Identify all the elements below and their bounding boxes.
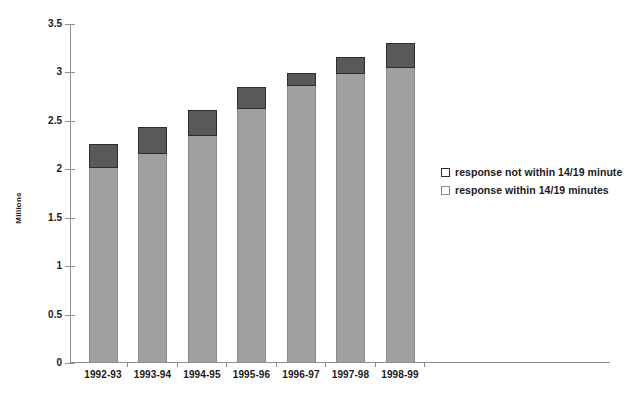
y-axis-tick-label: 0: [22, 358, 62, 368]
bar-segment-within[interactable]: [188, 136, 217, 362]
legend-item-label: response not within 14/19 minute: [455, 166, 622, 178]
bar-1992-93[interactable]: [89, 144, 118, 362]
bar-1994-95[interactable]: [188, 110, 217, 362]
bar-segment-not-within[interactable]: [287, 73, 316, 86]
legend-item-label: response within 14/19 minutes: [455, 184, 609, 196]
bar-segment-not-within[interactable]: [138, 127, 167, 154]
x-axis-tick: [226, 363, 227, 367]
y-axis-tick: [65, 266, 75, 267]
x-axis-tick: [177, 363, 178, 367]
bar-segment-within[interactable]: [89, 168, 118, 362]
bar-segment-not-within[interactable]: [336, 57, 365, 74]
bar-segment-not-within[interactable]: [237, 87, 266, 109]
bar-segment-not-within[interactable]: [89, 144, 118, 168]
y-axis-tick-label: 3.5: [22, 19, 62, 29]
bar-segment-within[interactable]: [287, 86, 316, 362]
light-gray-swatch-icon: [441, 186, 450, 195]
y-axis-tick-label: 2.5: [22, 116, 62, 126]
plot-area: 00.511.522.533.5 1992-931993-941994-9519…: [70, 24, 422, 363]
legend-item-within[interactable]: response within 14/19 minutes: [441, 181, 642, 199]
x-axis-tick: [127, 363, 128, 367]
x-axis-tick: [424, 363, 425, 367]
y-axis-tick: [65, 363, 75, 364]
y-axis-tick-label: 3: [22, 67, 62, 77]
y-axis-tick: [65, 218, 75, 219]
bar-segment-within[interactable]: [386, 68, 415, 362]
x-axis-label-1998-99: 1998-99: [370, 369, 430, 380]
y-axis-tick-label: 0.5: [22, 310, 62, 320]
chart-legend: response not within 14/19 minute respons…: [441, 163, 642, 199]
x-axis-tick: [276, 363, 277, 367]
x-axis-tick: [325, 363, 326, 367]
bar-segment-within[interactable]: [237, 109, 266, 362]
bar-1997-98[interactable]: [336, 57, 365, 362]
y-axis-tick: [65, 121, 75, 122]
bar-1993-94[interactable]: [138, 127, 167, 362]
y-axis-tick: [65, 169, 75, 170]
bar-1996-97[interactable]: [287, 73, 316, 362]
y-axis-line: [70, 24, 71, 363]
x-axis-tick: [375, 363, 376, 367]
y-axis-tick: [65, 24, 75, 25]
bar-segment-not-within[interactable]: [386, 43, 415, 67]
stacked-bar-chart: Millions 00.511.522.533.5 1992-931993-94…: [0, 0, 642, 407]
y-axis-tick-label: 2: [22, 164, 62, 174]
y-axis-tick-label: 1: [22, 261, 62, 271]
y-axis-tick-label: 1.5: [22, 213, 62, 223]
y-axis-title: Millions: [14, 178, 23, 238]
bar-segment-within[interactable]: [336, 74, 365, 362]
bar-segment-not-within[interactable]: [188, 110, 217, 136]
x-axis-line: [70, 362, 610, 363]
bar-segment-within[interactable]: [138, 154, 167, 362]
dark-gray-swatch-icon: [441, 168, 450, 177]
legend-item-not-within[interactable]: response not within 14/19 minute: [441, 163, 642, 181]
y-axis-tick: [65, 315, 75, 316]
bar-1998-99[interactable]: [386, 43, 415, 362]
bar-1995-96[interactable]: [237, 87, 266, 362]
y-axis-tick: [65, 72, 75, 73]
